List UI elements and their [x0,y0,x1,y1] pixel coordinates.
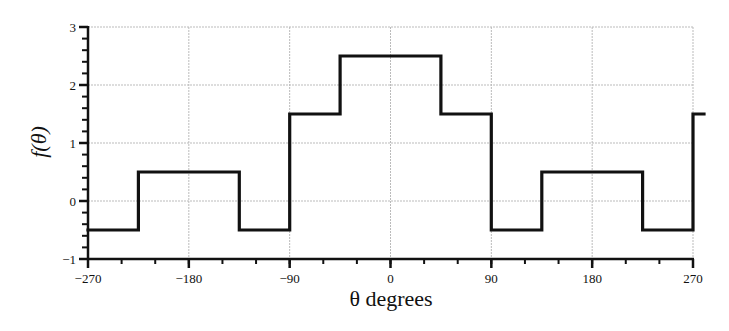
y-tick-label: −1 [62,252,76,267]
y-tick-labels: −10123 [62,20,76,267]
y-tick-label: 3 [70,20,77,35]
x-tick-label: 90 [485,271,498,286]
step-function-chart: −270−180−90090180270 −10123 θ degrees f(… [0,0,729,331]
x-tick-labels: −270−180−90090180270 [75,271,703,286]
major-ticks [79,27,693,268]
x-tick-label: −270 [75,271,102,286]
x-axis-title: θ degrees [349,286,432,311]
x-tick-label: −180 [175,271,202,286]
x-tick-label: 270 [683,271,703,286]
x-tick-label: 0 [387,271,394,286]
y-axis-title: f(θ) [26,126,51,158]
x-tick-label: 180 [582,271,602,286]
y-tick-label: 2 [70,78,77,93]
y-tick-label: 1 [70,136,77,151]
grid-lines [88,27,693,259]
y-tick-label: 0 [70,194,77,209]
minor-ticks [82,27,693,264]
x-tick-label: −90 [279,271,299,286]
